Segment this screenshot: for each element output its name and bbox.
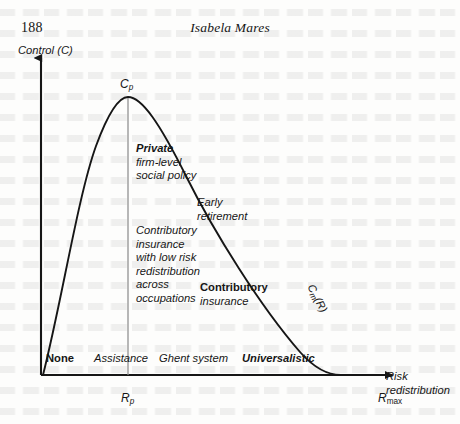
annotation-private-line3: social policy [136, 169, 196, 183]
rp-label-symbol: R [121, 391, 130, 405]
control-curve [43, 97, 392, 375]
annotation-private-line2: firm-level [136, 156, 196, 170]
annotation-contributory-insurance-line2: insurance [200, 295, 268, 309]
rp-label-subscript: p [130, 397, 135, 406]
book-page: 188 Isabela Mares Control (C) Cp Private… [0, 0, 460, 424]
x-axis-label-line1: Risk [386, 370, 450, 384]
rmax-label-subscript: max [387, 397, 402, 406]
annotation-contributory-low-risk-line1: Contributory [136, 224, 200, 238]
category-label-assistance: Assistance [94, 352, 148, 366]
annotation-early-retirement-line2: retirement [197, 210, 247, 224]
category-label-ghent-system: Ghent system [159, 352, 228, 366]
category-label-universalistic: Universalistic [242, 352, 315, 366]
annotation-contributory-insurance: Contributory insurance [200, 281, 268, 308]
peak-label-symbol: C [120, 77, 129, 91]
x-axis-label-line2: redistribution [386, 384, 450, 398]
annotation-contributory-low-risk-line2: insurance [136, 238, 200, 252]
annotation-contributory-low-risk: Contributory insurance with low risk red… [136, 224, 200, 305]
category-label-none: None [46, 352, 74, 366]
annotation-early-retirement-line1: Early [197, 196, 247, 210]
annotation-contributory-insurance-line1: Contributory [200, 281, 268, 295]
annotation-private: Private firm-level social policy [136, 142, 196, 183]
x-tick-label-rp: Rp [121, 392, 134, 409]
annotation-contributory-low-risk-line3: with low risk [136, 251, 200, 265]
annotation-contributory-low-risk-line5: across [136, 278, 200, 292]
annotation-contributory-low-risk-line6: occupations [136, 292, 200, 306]
peak-label-subscript: p [129, 83, 134, 92]
peak-value-label: Cp [120, 78, 133, 95]
y-axis-label: Control (C) [18, 44, 73, 58]
annotation-contributory-low-risk-line4: redistribution [136, 265, 200, 279]
annotation-private-line1: Private [136, 142, 196, 156]
annotation-early-retirement: Early retirement [197, 196, 247, 223]
x-axis-label: Risk redistribution [386, 370, 450, 397]
